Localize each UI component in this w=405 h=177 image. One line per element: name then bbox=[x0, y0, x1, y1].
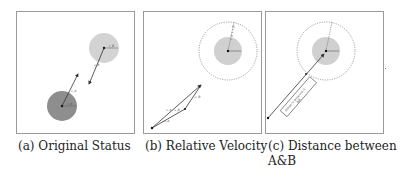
velocity-neg-b-label: -v_B bbox=[194, 95, 201, 99]
center-line-arrow bbox=[268, 54, 324, 118]
vertex-point bbox=[184, 108, 186, 110]
relative-velocity-diagram: r_A + r_B v_A - v_B v_A -v_B bbox=[144, 12, 261, 133]
caption-c: (c) Distance between A&B bbox=[268, 139, 403, 169]
obstacle-center bbox=[325, 50, 327, 52]
distance-box-label: distance between A bbox=[284, 87, 307, 113]
obstacle-center bbox=[227, 50, 229, 52]
expanded-radius-label: r_A + r_B bbox=[229, 24, 236, 40]
velocity-sum-label: v_A - v_B bbox=[166, 108, 180, 112]
velocity-b-label: v_B bbox=[94, 63, 100, 67]
agent-a-point bbox=[267, 117, 269, 119]
original-status-diagram: r_B r_A v_B v_A bbox=[17, 12, 134, 133]
radius-b-label: r_B bbox=[109, 44, 115, 48]
relative-velocity-arrow bbox=[152, 85, 201, 128]
origin-point bbox=[151, 127, 153, 129]
stray-mark bbox=[385, 68, 386, 69]
velocity-a-label: v_A bbox=[71, 89, 77, 93]
caption-b: (b) Relative Velocity bbox=[145, 139, 267, 154]
velocity-a-label: v_A bbox=[164, 119, 170, 123]
panel-distance-between: distance between A &B bbox=[265, 11, 384, 134]
panel-original-status: r_B r_A v_B v_A bbox=[16, 11, 135, 134]
radius-a-label: r_A bbox=[67, 102, 73, 106]
caption-a: (a) Original Status bbox=[18, 139, 131, 154]
caption-c-line1: (c) Distance between bbox=[268, 139, 403, 154]
panel-relative-velocity: r_A + r_B v_A - v_B v_A -v_B bbox=[143, 11, 262, 134]
caption-c-line2: A&B bbox=[268, 154, 403, 169]
boundary-point bbox=[305, 73, 307, 75]
distance-diagram: distance between A &B bbox=[266, 12, 383, 133]
